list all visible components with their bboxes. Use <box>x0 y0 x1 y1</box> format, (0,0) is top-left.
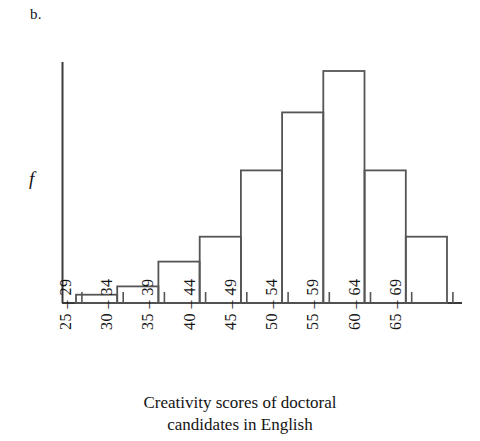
histogram-bar <box>365 170 406 303</box>
x-axis-ticks <box>82 292 453 303</box>
caption-line-1: Creativity scores of doctoral <box>0 392 480 414</box>
bars-group <box>76 71 447 303</box>
histogram-plot <box>0 0 480 441</box>
caption-line-2: candidates in English <box>0 414 480 436</box>
histogram-bar <box>241 170 282 303</box>
histogram-bar <box>323 71 364 303</box>
histogram-figure: b. f 25 – 2930 – 3435 – 3940 – 4445 – 49… <box>0 0 480 441</box>
figure-caption: Creativity scores of doctoral candidates… <box>0 392 480 436</box>
axis-lines <box>62 62 462 303</box>
histogram-bar <box>282 112 323 303</box>
